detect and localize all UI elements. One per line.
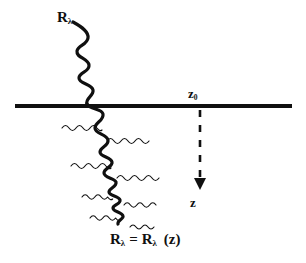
surface-depth-base: z xyxy=(188,86,194,101)
scattered-wave-right-3 xyxy=(124,203,156,208)
scattered-wave-right-2 xyxy=(117,176,159,181)
incident-beam-base: R xyxy=(57,9,68,25)
depth-axis-base: z xyxy=(190,195,196,210)
incident-beam-label: Rλ xyxy=(57,10,72,25)
equation-label: Rλ=Rλ(z) xyxy=(110,232,180,247)
scattered-wave-right-1 xyxy=(107,139,149,144)
transmitted-wave xyxy=(87,104,123,224)
depth-arrow xyxy=(194,110,206,190)
scattered-wave-left-3 xyxy=(82,195,113,200)
surface-depth-label: z0 xyxy=(188,87,198,100)
scattered-wave-left-2 xyxy=(71,164,111,169)
scattered-wave-left-4 xyxy=(90,216,121,221)
equation-argument: (z) xyxy=(164,232,181,247)
scattered-wave-right-4 xyxy=(130,225,154,229)
equation-left-subscript: λ xyxy=(121,238,125,248)
equation-left-base: R xyxy=(110,231,121,247)
equation-right-base: R xyxy=(142,231,153,247)
depth-arrow-head xyxy=(194,178,206,190)
equation-operator: = xyxy=(129,231,138,247)
surface-depth-subscript: 0 xyxy=(194,93,198,102)
radiative-transfer-figure: Rλ z0 z Rλ=Rλ(z) xyxy=(0,0,306,263)
equation-right-subscript: λ xyxy=(153,238,157,248)
incident-wave xyxy=(73,22,93,104)
figure-canvas xyxy=(0,0,306,263)
depth-axis-label: z xyxy=(190,196,196,209)
incident-beam-subscript: λ xyxy=(68,16,72,26)
